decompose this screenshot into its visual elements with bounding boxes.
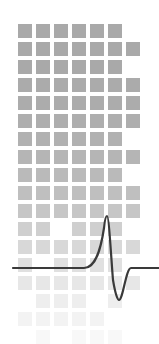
grid-square [36,330,50,344]
grid-square [72,330,86,344]
grid-square [108,330,122,344]
grid-square [90,330,104,344]
action-potential-curve [13,216,159,300]
